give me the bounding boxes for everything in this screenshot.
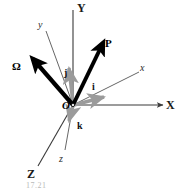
- unit-vector-label-j: j: [64, 68, 67, 78]
- vector-label-P: P: [105, 38, 112, 49]
- axis-y-line: [46, 31, 73, 105]
- figure-caption: 17.21: [26, 181, 47, 190]
- vector-label-omega: Ω: [12, 61, 21, 72]
- axis-label-X: X: [166, 99, 175, 111]
- axis-label-x: x: [140, 63, 144, 73]
- axis-label-z: z: [59, 154, 63, 164]
- unit-vector-label-i: i: [92, 82, 95, 92]
- origin-point: [71, 103, 74, 106]
- origin-label: O: [62, 100, 70, 111]
- vector-p-arrow: [73, 43, 103, 105]
- unit-vector-label-k: k: [77, 121, 83, 131]
- diagram-canvas: [0, 0, 177, 190]
- axis-label-Y: Y: [77, 2, 86, 14]
- axis-label-Z: Z: [27, 168, 35, 180]
- axis-label-y: y: [38, 20, 42, 30]
- vector-diagram-figure: Y X Z y x z Ω P i j k O 17.21: [0, 0, 177, 190]
